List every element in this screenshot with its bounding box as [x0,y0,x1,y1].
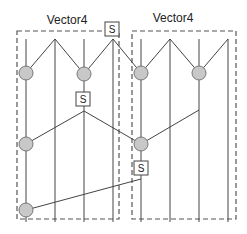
svg-text:S: S [80,94,87,105]
shuffle-box: S [105,22,119,36]
group-label-left: Vector4 [47,13,88,27]
shuffle-box: S [134,161,148,175]
reduction-node [134,66,148,80]
reduction-node [77,67,91,81]
group-label-right: Vector4 [153,11,194,25]
shuffle-box: S [76,92,90,106]
reduction-edges [26,39,228,210]
reduction-node [19,66,33,80]
reduction-node [19,137,33,151]
reduction-diagram: Vector4 Vector4 S S S [0,0,247,234]
reduction-node [134,137,148,151]
svg-text:S: S [138,163,145,174]
reduction-node [19,203,33,217]
vector4-group-right [132,31,236,219]
vector4-group-left [17,31,119,219]
reduction-node [192,66,206,80]
svg-text:S: S [109,24,116,35]
